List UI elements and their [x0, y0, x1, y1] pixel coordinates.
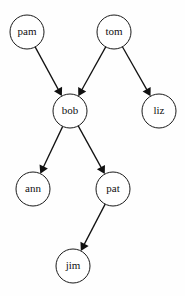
edge-shaft [122, 47, 147, 91]
edge-shaft [78, 126, 101, 168]
graph-edge-bob-to-pat [78, 126, 105, 174]
node-label-pat: pat [106, 182, 119, 194]
graph-node-bob[interactable]: bob [53, 94, 87, 128]
graph-edge-pat-to-jim [80, 204, 105, 251]
graph-node-jim[interactable]: jim [56, 249, 90, 283]
nodes-layer: pamtomboblizannpatjim [10, 15, 176, 283]
edge-shaft [43, 126, 63, 167]
node-label-pam: pam [18, 25, 37, 37]
graph-edge-tom-to-liz [122, 47, 150, 96]
graph-node-pat[interactable]: pat [96, 172, 130, 206]
node-label-tom: tom [105, 25, 123, 37]
graph-node-ann[interactable]: ann [16, 172, 50, 206]
graph-edge-pam-to-bob [35, 47, 62, 96]
graph-node-liz[interactable]: liz [142, 94, 176, 128]
graph-canvas: pamtomboblizannpatjim [0, 0, 185, 296]
node-label-bob: bob [62, 104, 79, 116]
edge-shaft [35, 47, 58, 90]
edge-shaft [82, 47, 106, 90]
graph-node-pam[interactable]: pam [10, 15, 44, 49]
graph-node-tom[interactable]: tom [97, 15, 131, 49]
node-label-liz: liz [154, 104, 165, 116]
node-label-ann: ann [25, 182, 41, 194]
graph-edge-bob-to-ann [40, 126, 63, 173]
graph-edge-tom-to-bob [78, 47, 106, 96]
graph-diagram: pamtomboblizannpatjim [0, 0, 185, 296]
edges-layer [35, 47, 150, 251]
edge-shaft [84, 204, 105, 245]
node-label-jim: jim [65, 259, 81, 271]
